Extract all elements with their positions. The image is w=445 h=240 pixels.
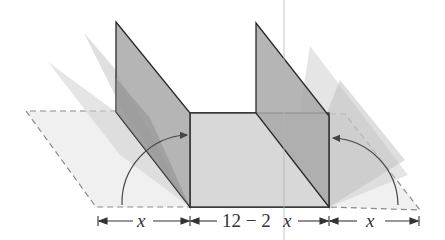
gutter-fold-diagram: x 12 − 2 x x <box>0 0 445 240</box>
middle-width-number: 12 − 2 <box>222 210 271 231</box>
right-width-label: x <box>365 210 375 231</box>
left-width-label: x <box>136 210 146 231</box>
middle-width-var: x <box>282 210 292 231</box>
